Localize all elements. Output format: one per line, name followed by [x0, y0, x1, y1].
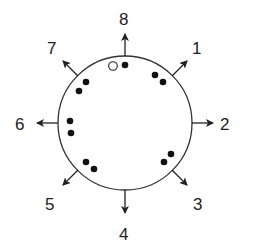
- dot-icon: [160, 79, 167, 86]
- arrow-5-icon: [63, 170, 78, 185]
- label-4: 4: [119, 225, 128, 244]
- arrow-1-icon: [172, 61, 187, 76]
- dot-icon: [76, 88, 83, 95]
- dot-icon: [152, 72, 159, 79]
- arrow-7-icon: [63, 61, 78, 76]
- dot-icon: [68, 130, 75, 137]
- main-circle: [58, 56, 192, 190]
- label-3: 3: [193, 195, 202, 214]
- label-7: 7: [47, 39, 56, 58]
- dot-icon: [161, 159, 168, 166]
- label-1: 1: [192, 39, 201, 58]
- direction-diagram: 8 1 2 3 4 5 6 7: [0, 0, 254, 245]
- label-6: 6: [15, 115, 24, 134]
- label-5: 5: [45, 195, 54, 214]
- open-dot-icon: [109, 62, 118, 71]
- label-8: 8: [119, 10, 128, 29]
- dot-icon: [122, 62, 129, 69]
- dot-icon: [83, 79, 90, 86]
- arrow-3-icon: [172, 170, 187, 185]
- label-2: 2: [220, 115, 229, 134]
- dot-icon: [83, 159, 90, 166]
- dot-icon: [168, 151, 175, 158]
- dot-icon: [91, 166, 98, 173]
- direction-arrows: [37, 34, 213, 213]
- dot-icon: [67, 118, 74, 125]
- dots: [67, 62, 175, 173]
